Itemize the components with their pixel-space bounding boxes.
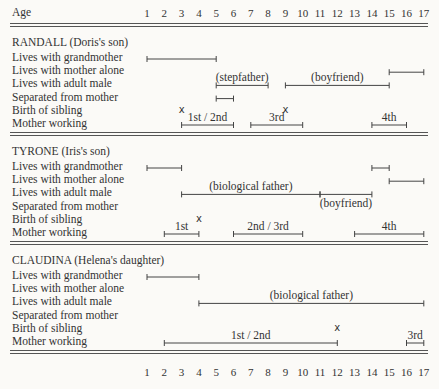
axis-tick: 11 bbox=[315, 366, 326, 378]
axis-tick: 10 bbox=[297, 366, 308, 378]
axis-tick: 14 bbox=[366, 366, 377, 378]
birth-marker-icon: x bbox=[334, 322, 340, 333]
axis-tick: 4 bbox=[196, 366, 202, 378]
birth-marker-icon: x bbox=[282, 104, 288, 115]
interval-label: (biological father) bbox=[209, 180, 292, 192]
axis-tick: 17 bbox=[418, 366, 429, 378]
axis-tick: 2 bbox=[162, 366, 168, 378]
birth-marker-icon: x bbox=[196, 213, 202, 224]
axis-tick: 7 bbox=[248, 366, 254, 378]
interval-label: (boyfriend) bbox=[311, 71, 363, 83]
interval-label: 4th bbox=[382, 220, 397, 232]
interval-label: 1st bbox=[175, 220, 188, 232]
axis-tick: 3 bbox=[179, 366, 185, 378]
axis-tick: 5 bbox=[213, 366, 219, 378]
interval-label: 1st / 2nd bbox=[188, 111, 228, 123]
timeline-plot bbox=[0, 0, 439, 389]
interval-label: 1st / 2nd bbox=[231, 329, 271, 341]
axis-tick: 1 bbox=[144, 366, 150, 378]
axis-tick: 12 bbox=[332, 366, 343, 378]
interval-label: 2nd / 3rd bbox=[247, 220, 289, 232]
birth-marker-icon: x bbox=[179, 104, 185, 115]
axis-tick: 8 bbox=[265, 366, 271, 378]
axis-tick: 15 bbox=[384, 366, 395, 378]
interval-label: (biological father) bbox=[270, 289, 353, 301]
axis-tick: 9 bbox=[283, 366, 289, 378]
interval-label: 3rd bbox=[407, 329, 422, 341]
axis-tick: 16 bbox=[401, 366, 412, 378]
interval-label: (stepfather) bbox=[216, 71, 269, 83]
axis-tick: 6 bbox=[231, 366, 237, 378]
interval-label: 4th bbox=[382, 111, 397, 123]
axis-tick: 13 bbox=[349, 366, 360, 378]
interval-label: (boyfriend) bbox=[320, 197, 372, 209]
